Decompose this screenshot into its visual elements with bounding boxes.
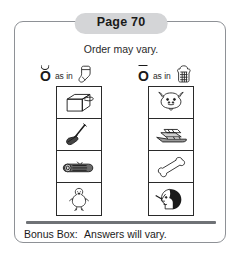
picture-cell-goat: [149, 87, 193, 119]
picture-cell-nose: [149, 183, 193, 215]
short-o-heading: O as in: [40, 61, 95, 87]
answer-key-page: Page 70 Order may vary. O as in O: [0, 0, 242, 266]
picture-columns: [14, 86, 228, 219]
vowel-heading-row: O as in O as in: [14, 61, 228, 87]
bonus-box-divider: [26, 221, 216, 224]
long-o-vowel-letter: O: [138, 66, 149, 83]
long-o-as-in-label: as in: [153, 68, 171, 81]
bone-icon: [153, 154, 189, 180]
bonus-box: Bonus Box: Answers will vary.: [24, 228, 167, 240]
picture-cell-box: [57, 87, 101, 119]
goat-icon: [153, 90, 189, 116]
nose-icon: [153, 186, 189, 212]
log-icon: [60, 153, 98, 180]
mop-icon: [60, 121, 98, 148]
toast-icon: [175, 64, 193, 84]
order-note: Order may vary.: [0, 43, 242, 55]
short-o-vowel-letter: O: [40, 66, 51, 83]
picture-cell-boat: [149, 119, 193, 151]
picture-cell-ostrich: [57, 183, 101, 215]
bonus-box-answer: Answers will vary.: [84, 228, 167, 240]
ostrich-icon: [62, 185, 96, 213]
short-o-column: [56, 86, 102, 216]
picture-cell-mop: [57, 119, 101, 151]
short-o-as-in-label: as in: [55, 68, 73, 81]
page-number-badge: Page 70: [75, 13, 168, 34]
long-o-column: [148, 86, 194, 216]
boat-icon: [153, 122, 190, 148]
sock-icon: [77, 64, 95, 84]
long-o-heading: O as in: [138, 61, 193, 87]
macron-diacritic-icon: [139, 65, 148, 67]
bonus-box-label: Bonus Box:: [24, 228, 78, 240]
box-icon: [60, 89, 98, 116]
picture-cell-log: [57, 151, 101, 183]
picture-cell-bone: [149, 151, 193, 183]
